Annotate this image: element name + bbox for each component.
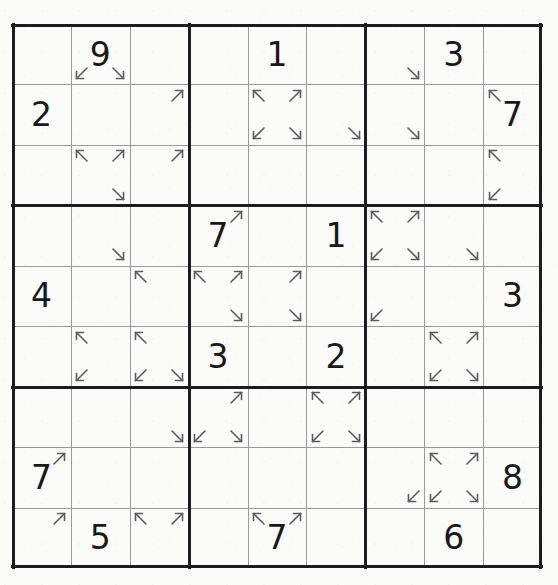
sudoku-cell-r8c2[interactable] xyxy=(71,447,130,507)
sudoku-cell-r3c5[interactable] xyxy=(248,145,307,205)
grid-line-vertical xyxy=(130,24,131,568)
sudoku-cell-r6c7[interactable] xyxy=(365,326,424,386)
sudoku-cell-r9c4[interactable] xyxy=(189,508,248,568)
sudoku-cell-r8c6[interactable] xyxy=(306,447,365,507)
sudoku-cell-r5c6[interactable] xyxy=(306,266,365,326)
sudoku-cell-r3c6[interactable] xyxy=(306,145,365,205)
sudoku-cell-r5c1[interactable]: 4 xyxy=(12,266,71,326)
grid-line-vertical xyxy=(424,24,425,568)
sudoku-cell-r7c3[interactable] xyxy=(130,387,189,447)
grid-line-vertical xyxy=(248,24,249,568)
sudoku-cell-r3c8[interactable] xyxy=(424,145,483,205)
sudoku-cell-r3c4[interactable] xyxy=(189,145,248,205)
sudoku-cell-r8c7[interactable] xyxy=(365,447,424,507)
sudoku-cell-r4c7[interactable] xyxy=(365,205,424,265)
sudoku-cell-r6c9[interactable] xyxy=(483,326,542,386)
sudoku-cell-r1c4[interactable] xyxy=(189,24,248,84)
sudoku-cell-r8c1[interactable]: 7 xyxy=(12,447,71,507)
sudoku-cell-r8c3[interactable] xyxy=(130,447,189,507)
sudoku-cell-r6c5[interactable] xyxy=(248,326,307,386)
sudoku-cell-r6c6[interactable]: 2 xyxy=(306,326,365,386)
box-line-horizontal xyxy=(11,204,543,207)
sudoku-cell-r3c7[interactable] xyxy=(365,145,424,205)
sudoku-cell-r1c2[interactable]: 9 xyxy=(71,24,130,84)
sudoku-cell-r9c8[interactable]: 6 xyxy=(424,508,483,568)
sudoku-cell-r9c2[interactable]: 5 xyxy=(71,508,130,568)
sudoku-cell-r8c4[interactable] xyxy=(189,447,248,507)
sudoku-cell-r5c2[interactable] xyxy=(71,266,130,326)
sudoku-cell-r1c5[interactable]: 1 xyxy=(248,24,307,84)
sudoku-cell-r9c1[interactable] xyxy=(12,508,71,568)
box-line-horizontal xyxy=(11,565,543,568)
sudoku-cell-r7c4[interactable] xyxy=(189,387,248,447)
sudoku-cell-r6c4[interactable]: 3 xyxy=(189,326,248,386)
sudoku-cell-r1c7[interactable] xyxy=(365,24,424,84)
sudoku-cell-r2c4[interactable] xyxy=(189,84,248,144)
sudoku-cell-r1c9[interactable] xyxy=(483,24,542,84)
sudoku-cell-r1c3[interactable] xyxy=(130,24,189,84)
grid-line-horizontal xyxy=(12,145,542,146)
box-line-vertical xyxy=(539,23,542,569)
given-digit: 2 xyxy=(12,84,71,144)
sudoku-cell-r1c1[interactable] xyxy=(12,24,71,84)
sudoku-cell-r5c8[interactable] xyxy=(424,266,483,326)
sudoku-cell-r1c6[interactable] xyxy=(306,24,365,84)
sudoku-cell-r8c8[interactable] xyxy=(424,447,483,507)
sudoku-cell-r9c5[interactable]: 7 xyxy=(248,508,307,568)
sudoku-cell-r3c2[interactable] xyxy=(71,145,130,205)
given-digit: 9 xyxy=(71,24,130,84)
sudoku-cell-r4c3[interactable] xyxy=(130,205,189,265)
sudoku-cell-r4c5[interactable] xyxy=(248,205,307,265)
sudoku-cell-r9c7[interactable] xyxy=(365,508,424,568)
sudoku-cell-r3c1[interactable] xyxy=(12,145,71,205)
grid-line-horizontal xyxy=(12,508,542,509)
sudoku-cell-r2c7[interactable] xyxy=(365,84,424,144)
sudoku-cell-r4c8[interactable] xyxy=(424,205,483,265)
sudoku-cell-r5c3[interactable] xyxy=(130,266,189,326)
sudoku-cell-r2c6[interactable] xyxy=(306,84,365,144)
sudoku-cell-r8c5[interactable] xyxy=(248,447,307,507)
sudoku-cell-r7c2[interactable] xyxy=(71,387,130,447)
sudoku-cell-r9c6[interactable] xyxy=(306,508,365,568)
sudoku-cell-r6c2[interactable] xyxy=(71,326,130,386)
sudoku-cell-r2c2[interactable] xyxy=(71,84,130,144)
sudoku-cell-r4c9[interactable] xyxy=(483,205,542,265)
sudoku-cell-r7c8[interactable] xyxy=(424,387,483,447)
sudoku-cell-r5c9[interactable]: 3 xyxy=(483,266,542,326)
sudoku-cell-r5c7[interactable] xyxy=(365,266,424,326)
sudoku-cell-r2c9[interactable]: 7 xyxy=(483,84,542,144)
grid-line-horizontal xyxy=(12,266,542,267)
sudoku-cell-r5c4[interactable] xyxy=(189,266,248,326)
sudoku-cell-r3c9[interactable] xyxy=(483,145,542,205)
given-digit: 1 xyxy=(248,24,307,84)
sudoku-cell-r2c1[interactable]: 2 xyxy=(12,84,71,144)
sudoku-cell-r4c2[interactable] xyxy=(71,205,130,265)
given-digit: 7 xyxy=(189,205,248,265)
sudoku-cell-r3c3[interactable] xyxy=(130,145,189,205)
grid-line-horizontal xyxy=(12,447,542,448)
sudoku-cell-r2c5[interactable] xyxy=(248,84,307,144)
sudoku-cell-r7c9[interactable] xyxy=(483,387,542,447)
box-line-vertical xyxy=(364,23,367,569)
sudoku-cell-r5c5[interactable] xyxy=(248,266,307,326)
sudoku-cell-r2c8[interactable] xyxy=(424,84,483,144)
sudoku-cell-r4c6[interactable]: 1 xyxy=(306,205,365,265)
given-digit: 5 xyxy=(71,508,130,568)
sudoku-cell-r6c3[interactable] xyxy=(130,326,189,386)
sudoku-cell-r6c1[interactable] xyxy=(12,326,71,386)
given-digit: 3 xyxy=(483,266,542,326)
sudoku-cell-r7c7[interactable] xyxy=(365,387,424,447)
sudoku-cell-r9c3[interactable] xyxy=(130,508,189,568)
given-digit: 3 xyxy=(424,24,483,84)
sudoku-cell-r8c9[interactable]: 8 xyxy=(483,447,542,507)
sudoku-cell-r4c4[interactable]: 7 xyxy=(189,205,248,265)
sudoku-cell-r4c1[interactable] xyxy=(12,205,71,265)
sudoku-cell-r6c8[interactable] xyxy=(424,326,483,386)
sudoku-cell-r7c6[interactable] xyxy=(306,387,365,447)
sudoku-cell-r2c3[interactable] xyxy=(130,84,189,144)
sudoku-cell-r1c8[interactable]: 3 xyxy=(424,24,483,84)
sudoku-cell-r7c1[interactable] xyxy=(12,387,71,447)
sudoku-grid[interactable]: 9132771433278576 xyxy=(12,24,542,568)
sudoku-cell-r7c5[interactable] xyxy=(248,387,307,447)
sudoku-cell-r9c9[interactable] xyxy=(483,508,542,568)
